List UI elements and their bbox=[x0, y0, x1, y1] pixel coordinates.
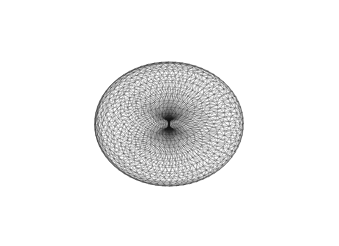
mesh-edge bbox=[190, 97, 191, 99]
mesh-edge bbox=[147, 97, 148, 99]
mesh-edge bbox=[207, 160, 210, 163]
mesh-edge bbox=[146, 128, 147, 130]
mesh-edge bbox=[226, 131, 232, 133]
mesh-edge bbox=[199, 128, 202, 130]
mesh-edge bbox=[202, 142, 210, 144]
mesh-edge bbox=[147, 149, 148, 151]
mesh-edge bbox=[136, 110, 143, 111]
mesh-edge bbox=[174, 90, 175, 97]
mesh-edge bbox=[128, 113, 129, 116]
mesh-edge bbox=[238, 107, 240, 108]
mesh-edge bbox=[200, 147, 201, 149]
mesh-edge bbox=[230, 109, 235, 111]
mesh-edge bbox=[107, 131, 113, 136]
mesh-edge bbox=[214, 152, 222, 153]
mesh-edge bbox=[210, 157, 212, 160]
mesh-edge bbox=[128, 138, 136, 140]
mesh-edge bbox=[218, 140, 225, 143]
mesh-edge bbox=[190, 149, 191, 151]
mesh-edge bbox=[114, 117, 115, 121]
mesh-edge bbox=[130, 116, 137, 119]
mesh-edge bbox=[152, 154, 154, 155]
mesh-edge bbox=[197, 94, 199, 96]
mesh-edge bbox=[224, 104, 225, 108]
mesh-edge bbox=[134, 95, 135, 102]
mesh-edge bbox=[158, 70, 162, 75]
mesh-edge bbox=[199, 87, 202, 89]
mesh-edge bbox=[174, 176, 179, 177]
mesh-edge bbox=[167, 152, 168, 159]
mesh-edge bbox=[124, 85, 131, 86]
mesh-edge bbox=[186, 94, 188, 95]
mesh-edge bbox=[182, 147, 183, 148]
mesh-edge bbox=[114, 135, 115, 146]
mesh-edge bbox=[212, 157, 217, 160]
mesh-edge bbox=[229, 127, 235, 128]
mesh-edge bbox=[172, 83, 173, 90]
mesh-edge bbox=[236, 123, 240, 124]
mesh-edge bbox=[181, 99, 182, 100]
mesh-edge bbox=[160, 158, 162, 159]
mesh-edge bbox=[216, 120, 224, 121]
mesh-edge bbox=[183, 76, 190, 77]
mesh-edge bbox=[136, 145, 137, 147]
mesh-edge bbox=[231, 140, 236, 141]
mesh-edge bbox=[207, 170, 209, 173]
mesh-edge bbox=[166, 177, 169, 181]
mesh-edge bbox=[214, 124, 222, 125]
mesh-edge bbox=[163, 64, 166, 67]
mesh-edge bbox=[140, 85, 141, 92]
mesh-edge bbox=[175, 77, 179, 78]
mesh-edge bbox=[137, 147, 138, 149]
mesh-edge bbox=[102, 112, 106, 122]
mesh-edge bbox=[209, 113, 210, 116]
mesh-edge bbox=[130, 98, 138, 99]
mesh-edge bbox=[151, 169, 155, 170]
mesh-edge bbox=[141, 154, 143, 156]
torus-figure bbox=[0, 0, 339, 246]
mesh-edge bbox=[216, 98, 217, 102]
mesh-edge bbox=[236, 136, 237, 141]
mesh-edge bbox=[136, 128, 139, 130]
mesh-edge bbox=[217, 156, 220, 160]
mesh-edge bbox=[165, 83, 166, 90]
mesh-edge bbox=[236, 125, 240, 126]
mesh-edge bbox=[204, 91, 210, 95]
mesh-edge bbox=[173, 178, 180, 179]
mesh-edge bbox=[168, 152, 169, 159]
mesh-edge bbox=[160, 128, 162, 129]
mesh-edge bbox=[201, 73, 205, 76]
mesh-edge bbox=[136, 87, 139, 89]
mesh-edge bbox=[144, 114, 145, 116]
mesh-edge bbox=[214, 124, 216, 128]
mesh-edge bbox=[146, 74, 150, 76]
mesh-edge bbox=[210, 127, 212, 130]
mesh-edge bbox=[114, 135, 117, 139]
mesh-edge bbox=[176, 70, 180, 75]
mesh-edge bbox=[116, 150, 122, 152]
mesh-edge bbox=[134, 89, 136, 92]
mesh-edge bbox=[159, 71, 164, 72]
mesh-edge bbox=[198, 149, 199, 151]
mesh-edge bbox=[172, 80, 179, 81]
mesh-edge bbox=[103, 91, 106, 96]
mesh-edge bbox=[192, 165, 194, 172]
mesh-edge bbox=[178, 158, 179, 165]
mesh-edge bbox=[110, 98, 115, 100]
mesh-edge bbox=[204, 95, 209, 98]
mesh-edge bbox=[192, 165, 197, 170]
mesh-edge bbox=[176, 150, 178, 151]
mesh-edge bbox=[222, 148, 224, 152]
mesh-edge bbox=[214, 94, 224, 95]
mesh-edge bbox=[98, 123, 102, 124]
mesh-edge bbox=[160, 90, 162, 91]
mesh-edge bbox=[173, 70, 180, 71]
mesh-edge bbox=[169, 152, 170, 159]
mesh-edge bbox=[185, 82, 191, 84]
mesh-edge bbox=[202, 89, 204, 92]
mesh-edge bbox=[195, 154, 197, 156]
mesh-edge bbox=[110, 99, 111, 106]
mesh-edge bbox=[175, 128, 177, 129]
mesh-edge bbox=[114, 90, 118, 92]
mesh-edge bbox=[171, 71, 174, 76]
